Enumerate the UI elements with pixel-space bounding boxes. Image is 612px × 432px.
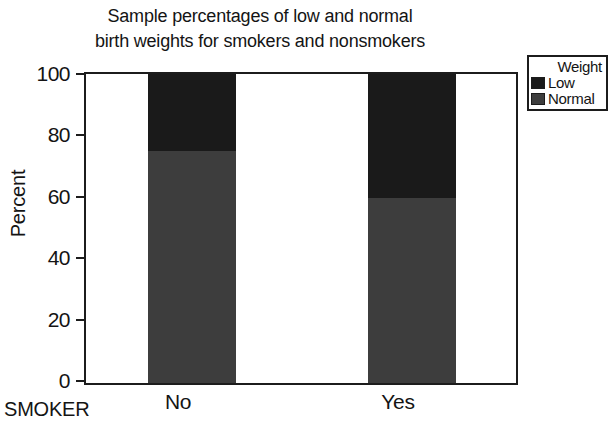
bar-group-yes[interactable] [368,74,456,383]
y-tick-mark-20 [76,319,84,321]
bar-segment-yes-low[interactable] [368,74,456,198]
x-category-label-yes: Yes [328,390,468,414]
x-category-label-no: No [108,390,248,414]
legend-swatch-low-icon [531,77,545,89]
y-tick-mark-80 [76,134,84,136]
y-tick-label-100: 100 [36,61,70,86]
legend-swatch-normal-icon [531,93,545,105]
y-tick-label-0: 0 [59,368,70,393]
plot-area [84,72,518,385]
y-tick-label-40: 40 [48,245,70,270]
plot-inner [86,74,516,383]
x-axis-title: SMOKER [4,398,89,421]
legend-entry-low[interactable]: Low [531,75,604,91]
y-tick-mark-0 [76,380,84,382]
chart-title-line-2: birth weights for smokers and nonsmokers [0,29,520,54]
chart-title-line-1: Sample percentages of low and normal [0,4,520,29]
bar-stack-yes [368,74,456,383]
legend-label-low: Low [548,75,575,91]
chart-figure: Sample percentages of low and normal bir… [0,0,612,432]
y-tick-mark-40 [76,257,84,259]
y-tick-mark-60 [76,196,84,198]
legend-label-normal: Normal [548,91,595,107]
legend: Weight Low Normal [527,55,608,111]
bar-segment-no-normal[interactable] [148,151,236,383]
y-tick-label-20: 20 [48,307,70,332]
y-tick-label-80: 80 [48,122,70,147]
y-tick-mark-100 [76,73,84,75]
bar-stack-no [148,74,236,383]
legend-title: Weight [531,58,604,75]
bar-group-no[interactable] [148,74,236,383]
y-axis-title: Percent [7,134,30,274]
bar-segment-yes-normal[interactable] [368,198,456,383]
y-tick-label-60: 60 [48,184,70,209]
legend-entry-normal[interactable]: Normal [531,91,604,107]
chart-title: Sample percentages of low and normal bir… [0,4,520,54]
bar-segment-no-low[interactable] [148,74,236,151]
